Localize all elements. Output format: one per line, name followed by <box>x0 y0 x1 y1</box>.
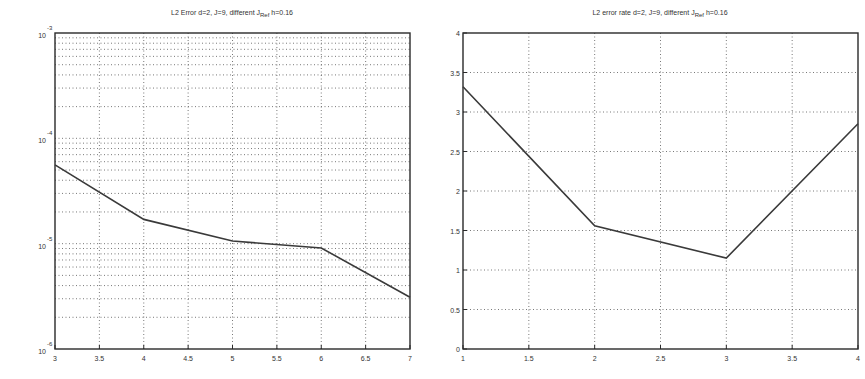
y-tick-label: 0.5 <box>450 306 460 313</box>
grid <box>463 33 858 349</box>
plot-area <box>0 0 865 379</box>
x-tick-label: 2 <box>593 355 597 362</box>
y-tick-label: 3.5 <box>450 69 460 76</box>
x-tick-label: 2.5 <box>656 355 666 362</box>
y-tick-label: 3 <box>456 109 460 116</box>
y-tick-label: 4 <box>456 30 460 37</box>
y-tick-label: 2.5 <box>450 148 460 155</box>
x-tick-label: 1.5 <box>524 355 534 362</box>
x-tick-label: 4 <box>856 355 860 362</box>
x-tick-label: 3 <box>724 355 728 362</box>
y-tick-label: 1.5 <box>450 227 460 234</box>
chart-l2-error-rate: L2 error rate d=2, J=9, different JRef h… <box>0 0 865 379</box>
y-tick-label: 1 <box>456 267 460 274</box>
y-tick-label: 0 <box>456 346 460 353</box>
x-tick-label: 1 <box>461 355 465 362</box>
data-line <box>463 87 858 258</box>
x-tick-label: 3.5 <box>787 355 797 362</box>
y-tick-label: 2 <box>456 188 460 195</box>
